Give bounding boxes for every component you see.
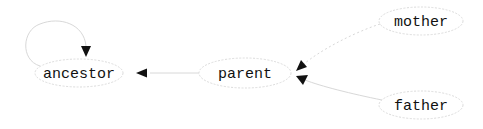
graph-canvas: ancestor parent mother father (0, 0, 483, 129)
edge-father-to-parent (305, 80, 382, 100)
node-parent[interactable]: parent (199, 58, 291, 88)
arrowhead-parent-to-ancestor-icon (136, 69, 147, 78)
arrowhead-mother-to-parent-icon (296, 60, 307, 71)
node-ancestor[interactable]: ancestor (35, 59, 123, 87)
node-father[interactable]: father (379, 91, 463, 119)
arrowhead-ancestor-self-loop-icon (81, 46, 91, 57)
node-mother[interactable]: mother (379, 7, 463, 35)
node-mother-label: mother (394, 14, 448, 31)
edge-mother-to-parent (304, 24, 380, 64)
node-parent-label: parent (218, 66, 272, 83)
node-ancestor-label: ancestor (43, 66, 115, 83)
node-father-label: father (394, 98, 448, 115)
